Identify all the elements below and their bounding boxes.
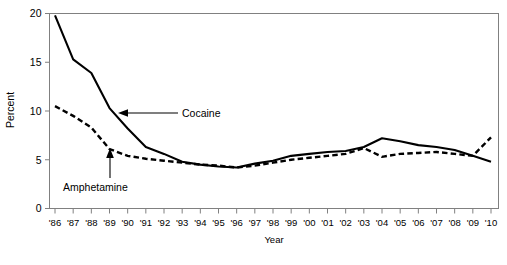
amphetamine-label: Amphetamine — [63, 181, 128, 193]
y-axis-tick-labels: 05101520 — [30, 7, 42, 214]
x-axis-ticks — [55, 209, 491, 214]
y-tick-label: 15 — [30, 56, 42, 68]
x-tick-label: '91 — [140, 217, 152, 228]
y-tick-label: 5 — [36, 154, 42, 166]
x-tick-label: '09 — [467, 217, 479, 228]
annotation-cocaine: Cocaine — [118, 107, 221, 119]
x-tick-label: '90 — [121, 217, 133, 228]
plot-frame — [50, 14, 499, 209]
x-tick-label: '06 — [412, 217, 424, 228]
chart-figure: 05101520 '86'87'88'89'90'91'92'93'94'95'… — [0, 0, 507, 265]
y-tick-label: 10 — [30, 105, 42, 117]
x-axis-tick-labels: '86'87'88'89'90'91'92'93'94'95'96'97'98'… — [49, 217, 497, 228]
x-tick-label: '10 — [485, 217, 497, 228]
x-tick-label: '95 — [212, 217, 224, 228]
x-tick-label: '86 — [49, 217, 61, 228]
x-tick-label: '87 — [67, 217, 79, 228]
drug-use-trend-line-chart: 05101520 '86'87'88'89'90'91'92'93'94'95'… — [0, 0, 507, 265]
x-tick-label: '94 — [194, 217, 206, 228]
x-tick-label: '03 — [358, 217, 370, 228]
x-tick-label: '07 — [430, 217, 442, 228]
x-tick-label: '99 — [285, 217, 297, 228]
series-line-cocaine — [55, 15, 491, 167]
x-tick-label: '05 — [394, 217, 406, 228]
x-tick-label: '92 — [158, 217, 170, 228]
x-axis-title: Year — [264, 234, 283, 245]
cocaine-label: Cocaine — [182, 107, 221, 119]
x-tick-label: '88 — [85, 217, 97, 228]
x-tick-label: '08 — [448, 217, 460, 228]
x-tick-label: '00 — [303, 217, 315, 228]
x-tick-label: '97 — [249, 217, 261, 228]
x-tick-label: '02 — [339, 217, 351, 228]
y-axis-ticks — [45, 14, 50, 209]
x-tick-label: '01 — [321, 217, 333, 228]
x-tick-label: '98 — [267, 217, 279, 228]
cocaine-arrow-head — [118, 109, 128, 117]
y-tick-label: 0 — [36, 202, 42, 214]
x-tick-label: '93 — [176, 217, 188, 228]
y-axis-title: Percent — [4, 92, 16, 128]
x-tick-label: '04 — [376, 217, 388, 228]
series-line-amphetamine — [55, 106, 491, 167]
annotation-amphetamine: Amphetamine — [63, 148, 128, 193]
y-tick-label: 20 — [30, 7, 42, 19]
x-tick-label: '96 — [230, 217, 242, 228]
x-tick-label: '89 — [103, 217, 115, 228]
